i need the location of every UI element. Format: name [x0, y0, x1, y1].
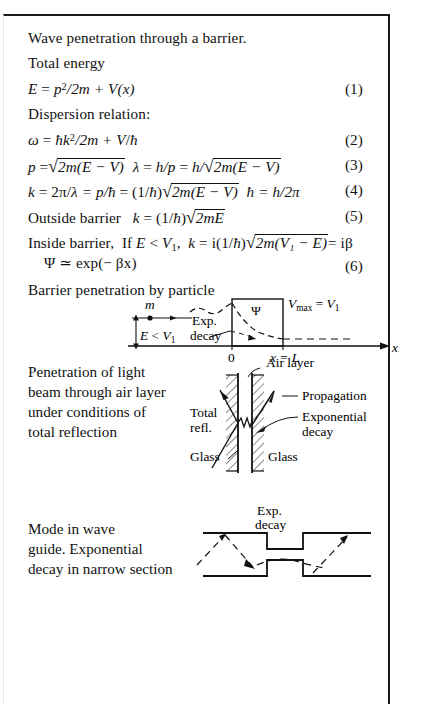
radical-sign-icon: √: [48, 158, 58, 176]
eq4-k: k: [28, 183, 35, 200]
waveguide-mode-diagram: Exp. decay: [195, 505, 385, 605]
document-content: Wave penetration through a barrier. Tota…: [0, 0, 421, 716]
eq3-radicand-2: 2m(E − V): [213, 158, 281, 174]
caption-total-reflection-line-3: under conditions of: [28, 402, 203, 422]
page-title: Wave penetration through a barrier.: [28, 30, 247, 45]
eq4-equals-3: = (1/: [120, 183, 150, 200]
caption-waveguide-line-1: Mode in wave: [28, 519, 203, 539]
eq1-arg: (x): [117, 80, 134, 97]
radical-sign-icon: √: [186, 209, 196, 227]
eq5-k: k: [133, 209, 140, 226]
eq5-radicand: 2mE: [195, 209, 225, 225]
caption-waveguide-line-2: guide. Exponential: [28, 539, 203, 559]
eq3-hslash: h/: [192, 158, 204, 175]
label-air-layer: Air layer: [266, 355, 314, 370]
equation-number-4: (4): [345, 182, 363, 197]
eq3-hp: h/p: [156, 158, 176, 175]
equation-number-1: (1): [345, 81, 363, 96]
radical-sign-icon: √: [162, 183, 172, 201]
caption-total-reflection-line-1: Penetration of light: [28, 362, 203, 382]
eq3-equals-3: =: [179, 158, 188, 175]
eq4-hbar2: ħ: [149, 183, 157, 200]
eq4-tail: = h/2π: [258, 183, 300, 200]
eq5-label: Outside barrier: [28, 209, 121, 226]
label-glass-right: Glass: [268, 449, 298, 464]
label-propagation: Propagation: [302, 388, 367, 403]
eq4-equals-2: = p/: [82, 183, 108, 200]
caption-waveguide-line-3: decay in narrow section: [28, 559, 203, 579]
label-x-axis: x: [391, 340, 398, 355]
radical-sign-icon: √: [246, 234, 256, 252]
caption-barrier-penetration: Barrier penetration by particle: [28, 282, 215, 297]
eq6-hbar: ħ: [233, 234, 241, 251]
eq6-result: = iβ: [328, 234, 353, 251]
eq4-hbar: ħ: [108, 183, 116, 200]
eq2-hbar: ħ: [55, 131, 63, 148]
eq1-lhs: E: [28, 80, 37, 97]
subheading-dispersion: Dispersion relation:: [28, 106, 150, 121]
label-total-refl-line1: Total: [190, 405, 218, 420]
equation-6: Inside barrier, If E < V1, k = i(1/ħ)√2m…: [28, 233, 353, 253]
caption-total-reflection-line-2: beam through air layer: [28, 382, 203, 402]
label-vmax: Vmax = V1: [288, 298, 340, 313]
eq6-cond-E: E: [136, 234, 145, 251]
eq2-over: /2m +: [75, 131, 112, 148]
label-exponential-line1: Exponential: [302, 409, 367, 424]
eq5-sqrt: √2mE: [186, 208, 225, 225]
label-psi: Ψ: [251, 303, 261, 318]
eq6-sqrt: √2m(V₁ − E): [246, 233, 328, 250]
equation-2: ω = ħk2/2m + V/ħ: [28, 132, 138, 147]
equation-number-5: (5): [345, 208, 363, 223]
eq5-equals: = (1/: [143, 209, 173, 226]
label-exponential-line2: decay: [302, 424, 334, 439]
equation-3: p =√2m(E − V) λ = h/p = h/√2m(E − V): [28, 157, 281, 174]
eq6-comma: ,: [177, 234, 181, 251]
eq4-lambda: λ: [71, 183, 78, 200]
label-glass-left: Glass: [190, 449, 220, 464]
radical-sign-icon: √: [204, 158, 214, 176]
label-exp-decay-line2: decay: [190, 328, 222, 343]
caption-total-reflection-line-4: total reflection: [28, 422, 203, 442]
eq4-tail-hbar: ħ: [247, 183, 255, 200]
eq2-equals: =: [43, 131, 52, 148]
caption-waveguide: Mode in wave guide. Exponential decay in…: [28, 519, 203, 579]
eq6-cond-V: V: [162, 234, 171, 251]
eq4-radicand: 2m(E − V): [171, 183, 239, 199]
eq6-k: k: [188, 234, 195, 251]
eq6-if: If: [122, 234, 132, 251]
eq1-equals: =: [41, 80, 50, 97]
eq6-label: Inside barrier,: [28, 234, 114, 251]
eq2-v: V: [116, 131, 125, 148]
eq3-sqrt-1: √2m(E − V): [48, 157, 125, 174]
equation-6-psi-line: Ψ ≃ exp(− βx): [44, 255, 137, 270]
eq5-hbar: ħ: [173, 209, 181, 226]
eq3-p: p: [28, 158, 36, 175]
eq6-radicand: 2m(V₁ − E): [255, 234, 328, 250]
eq1-over: /2m +: [67, 80, 104, 97]
equation-number-6: (6): [345, 258, 363, 273]
eq2-omega: ω: [28, 131, 39, 148]
eq3-radicand-1: 2m(E − V): [57, 158, 125, 174]
eq3-equals-2: =: [143, 158, 152, 175]
equation-1: E = p2/2m + V(x): [28, 81, 135, 96]
eq4-sqrt: √2m(E − V): [162, 182, 239, 199]
total-reflection-diagram: Air layer Propagation Exponential decay …: [190, 355, 400, 485]
label-mass: m: [145, 298, 155, 312]
equation-4: k = 2π/λ = p/ħ = (1/ħ)√2m(E − V) ħ = h/2…: [28, 182, 300, 199]
eq4-equals-1: = 2π/: [39, 183, 71, 200]
equation-number-2: (2): [345, 132, 363, 147]
label-exp-decay-line1: Exp.: [192, 313, 217, 328]
subheading-total-energy: Total energy: [28, 55, 105, 70]
equation-number-3: (3): [345, 157, 363, 172]
eq3-sqrt-2: √2m(E − V): [204, 157, 281, 174]
eq2-hbar2: ħ: [130, 131, 138, 148]
eq1-p: p: [54, 80, 62, 97]
eq6-equals: = i(1/: [199, 234, 233, 251]
label-energy-condition: E < V1: [139, 328, 176, 345]
eq3-equals-1: =: [40, 158, 49, 175]
eq6-cond-lt: <: [149, 234, 158, 251]
equation-5: Outside barrier k = (1/ħ)√2mE: [28, 208, 225, 225]
caption-total-reflection: Penetration of light beam through air la…: [28, 362, 203, 442]
label-total-refl-line2: refl.: [190, 420, 212, 435]
eq2-k: k: [63, 131, 70, 148]
